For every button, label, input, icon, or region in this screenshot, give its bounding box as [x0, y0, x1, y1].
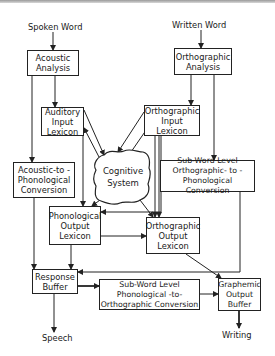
- subword-phonological-to-orthographic-box: Sub-Word Level Phonological -to- Orthogr…: [99, 279, 200, 310]
- writing-label: Writing: [222, 330, 252, 340]
- acoustic-analysis-box: Acoustic Analysis: [27, 50, 79, 76]
- subword-orthographic-to-phonological-box: Sub-Word Level Orthographic- to - Phonol…: [160, 160, 255, 192]
- orthographic-output-lexicon-box: Orthographic Output Lexicon: [146, 217, 200, 254]
- acoustic-to-phonological-conversion-box: Acoustic-to - Phonological Conversion: [13, 162, 75, 198]
- orthographic-analysis-box: Orthographic Analysis: [174, 48, 232, 75]
- response-buffer-box: Response Buffer: [32, 269, 78, 294]
- cognitive-system-label: Cognitive System: [97, 165, 149, 189]
- spoken-word-label: Spoken Word: [28, 22, 82, 32]
- auditory-input-lexicon-box: Auditory Input Lexicon: [41, 107, 84, 136]
- graphemic-output-buffer-box: Graphemic Output Buffer: [218, 278, 261, 311]
- speech-label: Speech: [42, 333, 73, 343]
- written-word-label: Written Word: [172, 20, 226, 30]
- phonological-output-lexicon-box: Phonological Output Lexicon: [49, 206, 101, 245]
- orthographic-input-lexicon-box: Orthographic Input Lexicon: [144, 105, 200, 136]
